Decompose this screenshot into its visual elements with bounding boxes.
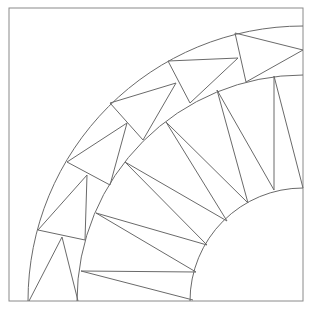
outer-ring-seam-line [38, 175, 87, 230]
middle-arc [77, 75, 303, 301]
outer-ring-seam-line [29, 237, 62, 301]
inner-ring-seam-line [81, 271, 196, 272]
inner-ring-seam-line [96, 213, 196, 272]
outer-ring-triangles [29, 33, 303, 301]
outer-ring-seam-line [190, 58, 238, 103]
outer-ring-seam-line [110, 103, 143, 140]
quilt-fan-diagram [0, 0, 312, 310]
outer-ring-seam-line [235, 33, 303, 50]
inner-ring-seam-line [166, 122, 248, 203]
outer-ring-seam-line [235, 33, 246, 82]
outer-ring-seam-line [85, 175, 87, 240]
inner-ring-seam-line [81, 271, 193, 300]
outer-ring-seam-line [168, 58, 238, 61]
inner-ring-seam-line [125, 162, 227, 221]
inner-ring-seam-line [166, 122, 227, 221]
outer-ring-seam-line [168, 61, 190, 103]
inner-ring-seam-line [217, 90, 274, 190]
inner-ring-triangles [81, 76, 303, 300]
block-frame [9, 8, 303, 301]
inner-ring-seam-line [96, 213, 207, 245]
inner-ring-seam-line [125, 162, 207, 245]
outer-ring-seam-line [62, 237, 78, 301]
outer-ring-seam-line [67, 162, 110, 185]
inner-ring-seam-line [274, 76, 303, 188]
inner-ring-seam-line [217, 90, 248, 203]
